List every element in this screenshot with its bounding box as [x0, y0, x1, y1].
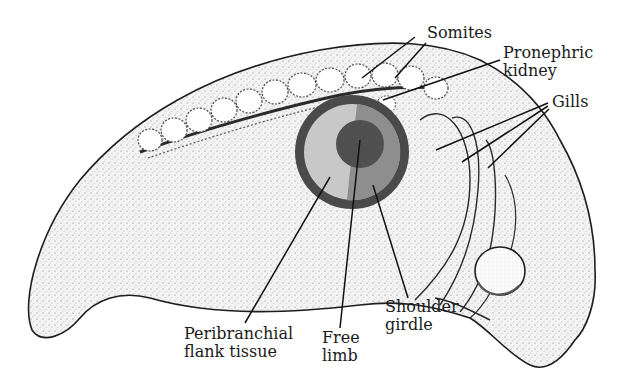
label-gills: Gills — [552, 93, 588, 111]
label-peribranchial-flank-tissue: Peribranchial flank tissue — [184, 325, 293, 361]
label-pronephric-kidney: Pronephric kidney — [503, 44, 593, 80]
limb-field — [295, 95, 409, 209]
label-free-limb: Free limb — [322, 329, 360, 365]
label-somites: Somites — [427, 24, 492, 42]
embryo-diagram: Somites Pronephric kidney Gills Peribran… — [0, 0, 623, 382]
label-shoulder-girdle: Shoulder girdle — [385, 298, 459, 334]
